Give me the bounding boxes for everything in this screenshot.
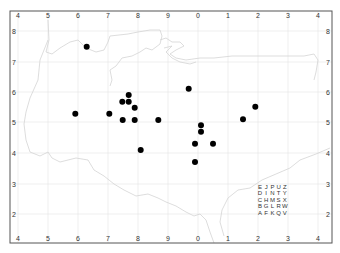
axis-tick-label: 1 — [226, 235, 230, 242]
location-marker[interactable] — [252, 104, 258, 110]
axis-tick-label: 5 — [326, 119, 330, 126]
grid-letter: K — [270, 210, 274, 216]
grid-letter: X — [283, 197, 287, 203]
grid-letter: Z — [283, 184, 287, 190]
location-marker[interactable] — [132, 117, 138, 123]
location-marker[interactable] — [119, 99, 125, 105]
axis-tick-label: 8 — [326, 28, 330, 35]
grid-letter: U — [276, 184, 280, 190]
grid-letter: D — [258, 190, 263, 196]
axis-tick-label: 4 — [16, 235, 20, 242]
axis-tick-label: 6 — [76, 12, 80, 19]
grid-letter: N — [270, 190, 274, 196]
axis-tick-label: 5 — [46, 12, 50, 19]
axis-tick-label: 6 — [326, 89, 330, 96]
grid-letter: M — [270, 197, 275, 203]
axis-tick-label: 4 — [316, 12, 320, 19]
axis-tick-label: 3 — [326, 181, 330, 188]
axis-tick-label: 7 — [106, 235, 110, 242]
location-marker[interactable] — [120, 117, 126, 123]
axis-tick-label: 2 — [256, 12, 260, 19]
axis-tick-label: 8 — [12, 28, 16, 35]
grid-letter: E — [258, 184, 262, 190]
grid-letter: R — [276, 203, 281, 209]
grid-letter: H — [264, 197, 268, 203]
axis-tick-label: 3 — [286, 12, 290, 19]
grid-letter: V — [283, 210, 287, 216]
grid-letter: Q — [276, 210, 281, 216]
grid-letter: A — [258, 210, 262, 216]
axis-tick-label: 4 — [12, 150, 16, 157]
location-marker[interactable] — [126, 99, 132, 105]
axis-tick-label: 7 — [106, 12, 110, 19]
location-marker[interactable] — [84, 44, 90, 50]
axis-tick-label: 8 — [136, 12, 140, 19]
location-marker[interactable] — [198, 129, 204, 135]
axis-tick-label: 7 — [12, 59, 16, 66]
axis-tick-label: 1 — [226, 12, 230, 19]
location-marker[interactable] — [186, 86, 192, 92]
grid-letter: F — [264, 210, 268, 216]
axis-tick-label: 0 — [196, 235, 200, 242]
axis-tick-label: 3 — [286, 235, 290, 242]
axis-tick-label: 5 — [46, 235, 50, 242]
location-marker[interactable] — [126, 92, 132, 98]
grid-letter: B — [258, 203, 262, 209]
axis-tick-label: 3 — [12, 181, 16, 188]
axis-tick-label: 5 — [12, 119, 16, 126]
axis-tick-label: 2 — [256, 235, 260, 242]
location-marker[interactable] — [138, 147, 144, 153]
map-canvas: 45678901234 45678901234 8765432 8765432 … — [0, 0, 340, 253]
grid-letter: P — [270, 184, 274, 190]
grid-letter: T — [277, 190, 281, 196]
axis-tick-label: 4 — [326, 150, 330, 157]
axis-tick-label: 6 — [12, 89, 16, 96]
location-marker[interactable] — [155, 117, 161, 123]
location-marker[interactable] — [198, 122, 204, 128]
grid-letter: S — [277, 197, 281, 203]
location-marker[interactable] — [240, 116, 246, 122]
grid-letter: G — [264, 203, 269, 209]
grid-letter: C — [258, 197, 263, 203]
location-marker[interactable] — [192, 141, 198, 147]
location-marker[interactable] — [192, 159, 198, 165]
axis-tick-label: 2 — [326, 211, 330, 218]
axis-tick-label: 9 — [166, 235, 170, 242]
grid-letter: J — [265, 184, 268, 190]
axis-tick-label: 9 — [166, 12, 170, 19]
axis-tick-label: 4 — [16, 12, 20, 19]
map-background — [0, 0, 340, 253]
axis-tick-label: 4 — [316, 235, 320, 242]
location-marker[interactable] — [132, 105, 138, 111]
axis-tick-label: 7 — [326, 59, 330, 66]
axis-tick-label: 0 — [196, 12, 200, 19]
axis-tick-label: 6 — [76, 235, 80, 242]
axis-tick-label: 8 — [136, 235, 140, 242]
grid-letter: Y — [283, 190, 287, 196]
grid-letter: W — [282, 203, 288, 209]
location-marker[interactable] — [72, 111, 78, 117]
axis-tick-label: 2 — [12, 211, 16, 218]
location-marker[interactable] — [210, 141, 216, 147]
location-marker[interactable] — [106, 111, 112, 117]
